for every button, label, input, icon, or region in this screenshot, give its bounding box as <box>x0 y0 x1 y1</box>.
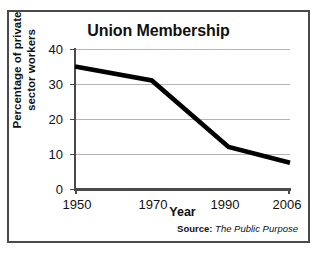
y-tick-label-40: 40 <box>49 42 63 57</box>
x-tick-1950 <box>75 189 77 194</box>
y-axis-title-line-2: sector workers <box>24 0 38 145</box>
chart-figure: Union Membership Percentage of private s… <box>7 10 310 243</box>
chart-title: Union Membership <box>9 22 308 40</box>
y-tick-label-20: 20 <box>49 112 63 127</box>
x-tick-2006 <box>288 189 290 194</box>
x-axis-title: Year <box>75 205 290 219</box>
source-value: The Public Purpose <box>215 223 298 234</box>
y-tick-label-0: 0 <box>56 182 63 197</box>
source-note: Source: The Public Purpose <box>177 223 298 234</box>
union-membership-series <box>75 49 290 189</box>
y-axis-title-line-1: Percentage of private <box>10 0 24 145</box>
plot-area: 40 30 20 10 0 1950 1970 1990 2006 <box>75 49 290 189</box>
source-label: Source: <box>177 223 212 234</box>
y-axis-title: Percentage of private sector workers <box>10 0 46 145</box>
y-tick-label-30: 30 <box>49 77 63 92</box>
y-tick-label-10: 10 <box>49 147 63 162</box>
